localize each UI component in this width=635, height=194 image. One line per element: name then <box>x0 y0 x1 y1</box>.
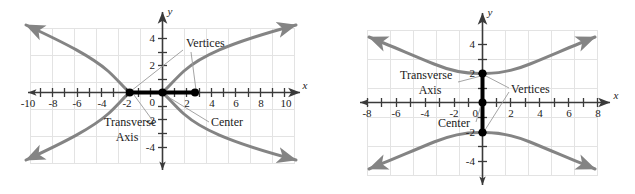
x-tick-label: -4 <box>97 97 107 109</box>
y-tick-label: 4 <box>470 38 476 50</box>
transverse-axis-label-line1: Transverse <box>400 68 452 82</box>
hyperbola-figure: -10 -8 -6 -4 -2 2 4 6 8 10 4 2 -2 -4 0 x… <box>0 0 635 194</box>
y-tick-label: 2 <box>470 67 476 79</box>
x-tick-label: 6 <box>566 107 572 119</box>
vertex-marker <box>479 70 487 78</box>
transverse-axis-label-line2: Axis <box>116 130 139 144</box>
x-tick-label: -6 <box>72 97 82 109</box>
x-tick-label: -6 <box>391 107 401 119</box>
origin-label: 0 <box>150 96 156 108</box>
x-tick-label: -8 <box>362 107 372 119</box>
x-tick-label: -8 <box>48 97 58 109</box>
leader-vertices-right <box>191 52 196 90</box>
leader-vertices-left <box>131 50 183 91</box>
y-tick-label: 4 <box>150 32 156 44</box>
x-tick-label: -4 <box>420 107 430 119</box>
y-axis-label: y <box>167 5 173 17</box>
x-tick-label: 10 <box>281 97 293 109</box>
x-tick-label: -10 <box>21 97 36 109</box>
center-label: Center <box>438 116 470 130</box>
y-axis-label: y <box>487 6 493 18</box>
hyperbola-panel-horizontal: -10 -8 -6 -4 -2 2 4 6 8 10 4 2 -2 -4 0 x… <box>0 0 320 194</box>
x-tick-label: -2 <box>122 97 131 109</box>
center-marker <box>159 89 167 97</box>
vertex-marker <box>126 89 134 97</box>
x-axis-label: x <box>613 89 619 101</box>
right-graph-svg: -8 -6 -4 -2 2 4 6 8 4 2 -2 -4 0 x y <box>320 0 635 194</box>
vertices-label: Vertices <box>186 36 225 50</box>
x-tick-label: 4 <box>209 97 215 109</box>
transverse-axis-label-line1: Transverse <box>104 115 156 129</box>
vertex-marker <box>191 89 199 97</box>
center-marker <box>479 99 487 107</box>
x-tick-label: 8 <box>595 107 601 119</box>
x-tick-label: 8 <box>258 97 264 109</box>
left-graph-svg: -10 -8 -6 -4 -2 2 4 6 8 10 4 2 -2 -4 0 x… <box>0 0 320 194</box>
x-tick-label: 2 <box>508 107 514 119</box>
curve-upper-right <box>482 37 595 74</box>
y-tick-label: 2 <box>150 59 156 71</box>
curve-lower-right <box>482 132 595 169</box>
y-tick-label: -4 <box>146 141 156 153</box>
y-tick-label: -4 <box>466 155 476 167</box>
x-tick-label: 6 <box>233 97 239 109</box>
hyperbola-panel-vertical: -8 -6 -4 -2 2 4 6 8 4 2 -2 -4 0 x y <box>320 0 635 194</box>
vertices-label: Vertices <box>511 82 550 96</box>
transverse-axis-label-line2: Axis <box>419 83 442 97</box>
x-tick-label: 4 <box>537 107 543 119</box>
x-tick-labels: -10 -8 -6 -4 -2 2 4 6 8 10 <box>21 97 292 109</box>
center-label: Center <box>211 115 243 129</box>
vertex-marker <box>479 129 487 137</box>
x-axis-label: x <box>302 79 308 91</box>
